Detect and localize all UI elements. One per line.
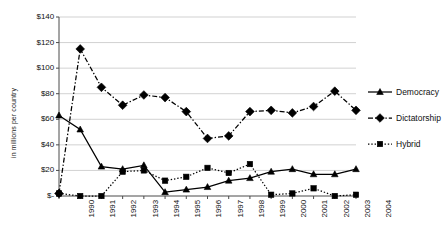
data-point-marker [289,166,296,172]
series-line [59,49,356,193]
data-point-marker [205,165,210,170]
legend-swatch-democracy [368,89,392,95]
data-point-marker [118,101,127,110]
data-point-marker [309,102,318,111]
data-point-marker [162,178,167,183]
data-point-marker [120,169,125,174]
data-point-marker [353,192,358,197]
legend-marker [376,114,385,123]
plot-area [0,0,448,244]
y-tick-label: $80 [20,89,54,98]
data-point-marker [268,192,273,197]
x-tick-label-1991: 1991 [108,200,117,224]
data-point-marker [77,126,84,132]
x-tick-label-1995: 1995 [193,200,202,224]
y-tick-label: $20 [20,165,54,174]
data-point-marker [141,168,146,173]
data-point-marker [140,91,149,100]
x-tick-label-1999: 1999 [278,200,287,224]
data-point-marker [76,45,85,54]
legend-label-hybrid: Hybrid [396,139,421,149]
series-line [59,115,356,192]
x-tick-label-2002: 2002 [342,200,351,224]
data-point-marker [97,83,106,92]
legend-label-democracy: Democracy [396,87,439,97]
y-tick-label: $40 [20,140,54,149]
legend-swatch-dictatorship [368,114,392,123]
x-tick-label-2000: 2000 [299,200,308,224]
data-point-marker [290,191,295,196]
x-tick-label-1998: 1998 [257,200,266,224]
x-tick-label-1993: 1993 [151,200,160,224]
data-point-marker [288,109,297,118]
x-tick-label-1996: 1996 [214,200,223,224]
data-point-marker [184,174,189,179]
x-tick-label-2001: 2001 [320,200,329,224]
x-tick-label-2004: 2004 [384,200,393,224]
y-tick-label: $60 [20,114,54,123]
data-point-marker [99,193,104,198]
x-tick-label-1997: 1997 [236,200,245,224]
y-tick-label: $120 [20,38,54,47]
legend-marker [377,141,382,146]
data-point-marker [141,162,148,168]
data-point-marker [311,186,316,191]
x-tick-label-2003: 2003 [363,200,372,224]
data-point-marker [353,166,360,172]
data-point-marker [161,93,170,102]
data-point-marker [226,170,231,175]
data-point-marker [247,161,252,166]
series-democracy [56,112,360,195]
x-tick-label-1992: 1992 [129,200,138,224]
x-tick-label-1994: 1994 [172,200,181,224]
line-chart: in millions per country $140$120$100$80$… [0,0,448,244]
data-point-marker [267,106,276,115]
y-tick-label: $100 [20,63,54,72]
data-point-marker [56,191,61,196]
x-tick-label-1990: 1990 [87,200,96,224]
data-point-marker [78,193,83,198]
legend-swatch-hybrid [368,141,392,146]
y-tick-label: $140 [20,12,54,21]
data-point-marker [203,134,212,143]
y-tick-label: $- [20,191,54,200]
legend-label-dictatorship: Dictatorship [396,113,441,123]
data-point-marker [332,193,337,198]
data-point-marker [56,112,63,118]
y-axis-title: in millions per country [10,88,17,158]
data-point-marker [98,163,105,169]
